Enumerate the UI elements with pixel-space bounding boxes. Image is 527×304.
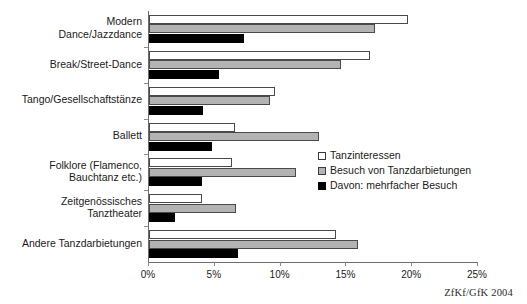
legend-label: Davon: mehrfacher Besuch: [330, 178, 457, 193]
x-axis-tick: [477, 262, 478, 266]
legend-label: Besuch von Tanzdarbietungen: [330, 163, 471, 178]
bar: [149, 177, 202, 186]
bar-group: [149, 194, 478, 222]
bar: [149, 87, 275, 96]
legend-swatch-icon: [318, 182, 326, 190]
bar: [149, 106, 203, 115]
bar-group: [149, 230, 478, 258]
x-axis-tick: [214, 262, 215, 266]
x-axis-tick-label: 5%: [207, 269, 221, 280]
category-tick: [144, 226, 148, 227]
category-label: Andere Tanzdarbietungen: [2, 237, 142, 250]
bar: [149, 24, 375, 33]
category-label: Modern Dance/Jazzdance: [2, 15, 142, 40]
x-axis-tick: [411, 262, 412, 266]
category-label: Break/Street-Dance: [2, 58, 142, 71]
dance-participation-bar-chart: 0%5%10%15%20%25% Modern Dance/JazzdanceB…: [0, 0, 527, 304]
x-axis-tick-label: 0%: [141, 269, 155, 280]
chart-legend: TanzinteressenBesuch von Tanzdarbietunge…: [318, 148, 471, 193]
category-tick: [144, 190, 148, 191]
bar: [149, 142, 212, 151]
bar: [149, 240, 358, 249]
category-tick: [144, 154, 148, 155]
category-tick: [144, 47, 148, 48]
bar-group: [149, 123, 478, 151]
x-axis-tick-label: 15%: [335, 269, 355, 280]
bar: [149, 249, 238, 258]
category-tick: [144, 119, 148, 120]
bar: [149, 168, 296, 177]
bar-group: [149, 15, 478, 43]
x-axis-tick: [148, 262, 149, 266]
plot-area: 0%5%10%15%20%25%: [148, 11, 477, 262]
bar: [149, 132, 319, 141]
legend-swatch-icon: [318, 167, 326, 175]
bar: [149, 15, 408, 24]
bar: [149, 96, 270, 105]
value-axis-line: [148, 262, 477, 263]
bar: [149, 34, 244, 43]
bar: [149, 158, 232, 167]
bar: [149, 51, 370, 60]
bar: [149, 204, 236, 213]
category-label: Zeitgenössisches Tanztheater: [2, 195, 142, 220]
x-axis-tick: [280, 262, 281, 266]
legend-item: Davon: mehrfacher Besuch: [318, 178, 471, 193]
bar: [149, 194, 202, 203]
legend-item: Tanzinteressen: [318, 148, 471, 163]
source-credit: ZfKf/GfK 2004: [444, 287, 513, 298]
x-axis-tick-label: 25%: [467, 269, 487, 280]
category-label: Folklore (Flamenco, Bauchtanz etc.): [2, 159, 142, 184]
legend-item: Besuch von Tanzdarbietungen: [318, 163, 471, 178]
bar: [149, 70, 219, 79]
bar: [149, 60, 341, 69]
x-axis-tick: [345, 262, 346, 266]
bar: [149, 230, 336, 239]
bar-group: [149, 51, 478, 79]
bar: [149, 213, 175, 222]
bar: [149, 123, 235, 132]
x-axis-tick-label: 20%: [401, 269, 421, 280]
legend-swatch-icon: [318, 152, 326, 160]
category-tick: [144, 83, 148, 84]
category-label: Ballett: [2, 129, 142, 142]
x-axis-tick-label: 10%: [270, 269, 290, 280]
bar-group: [149, 87, 478, 115]
legend-label: Tanzinteressen: [330, 148, 401, 163]
category-label: Tango/Gesellschaftstänze: [2, 93, 142, 106]
